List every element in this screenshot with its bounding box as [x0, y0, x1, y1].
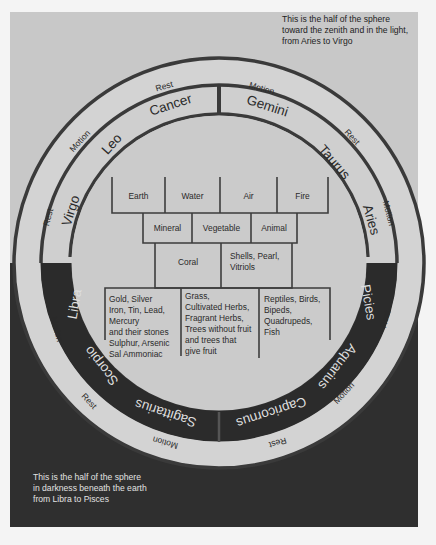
list-item: Cultivated Herbs, — [185, 302, 251, 313]
cell-vegetable-examples: Grass, Cultivated Herbs, Fragrant Herbs,… — [185, 291, 251, 357]
list-item: Sulphur, Arsenic — [109, 338, 170, 349]
cell-air: Air — [220, 191, 277, 202]
list-item: Fragrant Herbs, — [185, 313, 251, 324]
list-item: Quadrupeds, — [264, 316, 320, 327]
list-item: Reptiles, Birds, — [264, 294, 320, 305]
sphere-diagram: Rest Motion Motion Rest Rest Motion Moti… — [0, 0, 436, 545]
cell-fire: Fire — [277, 191, 328, 202]
note-line: in darkness beneath the earth — [33, 483, 147, 494]
cell-water: Water — [165, 191, 220, 202]
note-upper-half: This is the half of the sphere toward th… — [282, 14, 408, 47]
list-item: Bipeds, — [264, 305, 320, 316]
list-item: Trees without fruit — [185, 324, 251, 335]
list-item: and trees that — [185, 335, 251, 346]
list-item: Sal Ammoniac — [109, 349, 170, 360]
note-line: from Libra to Pisces — [33, 494, 147, 505]
note-line: This is the half of the sphere — [282, 14, 408, 25]
list-item: Mercury — [109, 316, 170, 327]
note-lower-half: This is the half of the sphere in darkne… — [33, 472, 147, 505]
note-line: from Aries to Virgo — [282, 36, 408, 47]
note-line: This is the half of the sphere — [33, 472, 147, 483]
list-item: Grass, — [185, 291, 251, 302]
list-item: give fruit — [185, 346, 251, 357]
list-item: Gold, Silver — [109, 294, 170, 305]
cell-shells-pearl-vitriols: Shells, Pearl, Vitriols — [230, 251, 292, 273]
list-item: Fish — [264, 327, 320, 338]
list-item: and their stones — [109, 327, 170, 338]
cell-vegetable: Vegetable — [192, 223, 251, 234]
cell-animal-examples: Reptiles, Birds, Bipeds, Quadrupeds, Fis… — [264, 294, 320, 338]
note-line: toward the zenith and in the light, — [282, 25, 408, 36]
cell-animal: Animal — [251, 223, 297, 234]
cell-mineral-examples: Gold, Silver Iron, Tin, Lead, Mercury an… — [109, 294, 170, 360]
cell-mineral: Mineral — [143, 223, 192, 234]
cell-earth: Earth — [112, 191, 165, 202]
list-item: Iron, Tin, Lead, — [109, 305, 170, 316]
cell-coral: Coral — [155, 257, 221, 268]
